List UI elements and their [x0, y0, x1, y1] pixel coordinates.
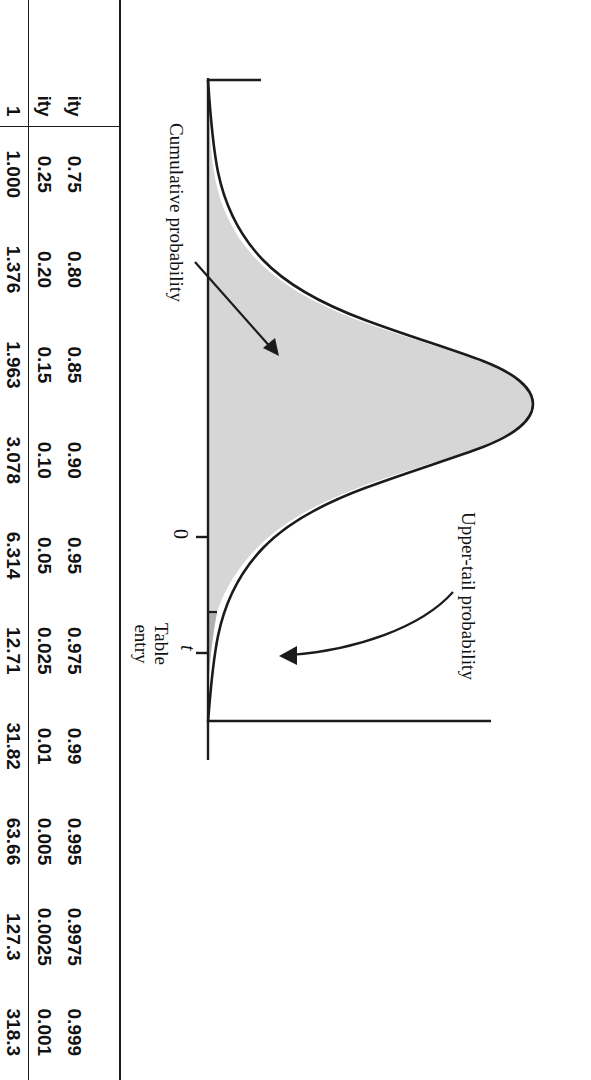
- upper-tail-cell: 0.15: [29, 317, 60, 412]
- table-cell: 318.3: [0, 985, 29, 1080]
- table-corner-cell: [89, 0, 120, 126]
- table-row-upper-tail-probability: ity 0.25 0.20 0.15 0.10 0.05 0.025 0.01 …: [29, 0, 60, 1080]
- table-entry-line-1: Table: [151, 623, 171, 665]
- table-cell: 3.078: [0, 413, 29, 508]
- table-cell: 127.3: [0, 889, 29, 984]
- table-cell: 12.71: [0, 603, 29, 698]
- cumulative-cell: 0.99: [59, 699, 89, 794]
- cumulative-cell: 0.80: [59, 222, 89, 317]
- upper-tail-cell: 0.001: [29, 985, 60, 1080]
- row-label-upper-tail-probability: ity: [29, 0, 60, 126]
- table-cell: 63.66: [0, 794, 29, 889]
- cumulative-cell: 0.95: [59, 508, 89, 603]
- upper-tail-cell: 0.25: [29, 126, 60, 222]
- table-cell: 1.376: [0, 222, 29, 317]
- upper-tail-probability-arrow: [291, 592, 453, 655]
- t-distribution-table: ity 0.75 0.80 0.85 0.90 0.95 0.975 0.99 …: [0, 0, 121, 1080]
- upper-tail-cell: 0.10: [29, 413, 60, 508]
- cumulative-cell: 0.85: [59, 317, 89, 412]
- upper-tail-cell: 0.0025: [29, 889, 60, 984]
- table-row-cumulative-probability: ity 0.75 0.80 0.85 0.90 0.95 0.975 0.99 …: [59, 0, 89, 1080]
- axis-tick-label-zero: 0: [169, 529, 192, 539]
- cumulative-cell: 0.9975: [59, 889, 89, 984]
- cumulative-cell: 0.75: [59, 126, 89, 222]
- t-table-container: ity 0.75 0.80 0.85 0.90 0.95 0.975 0.99 …: [0, 0, 121, 1080]
- t-distribution-figure: Cumulative probability Upper-tail probab…: [121, 0, 591, 1080]
- cumulative-cell: 0.995: [59, 794, 89, 889]
- cumulative-probability-region: [209, 88, 533, 612]
- upper-tail-cell: 0.005: [29, 794, 60, 889]
- row-label-cumulative-probability: ity: [59, 0, 89, 126]
- upper-tail-probability-label: Upper-tail probability: [457, 512, 479, 680]
- upper-tail-cell: 0.20: [29, 222, 60, 317]
- table-cell: 31.82: [0, 699, 29, 794]
- table-row: 1 1.000 1.376 1.963 3.078 6.314 12.71 31…: [0, 0, 29, 1080]
- upper-tail-cell: 0.01: [29, 699, 60, 794]
- upper-tail-cell: 0.05: [29, 508, 60, 603]
- cumulative-cell: 0.975: [59, 603, 89, 698]
- upper-tail-probability-arrowhead: [279, 646, 297, 665]
- t-distribution-curve-svg: [121, 0, 591, 1080]
- cumulative-cell: 0.90: [59, 413, 89, 508]
- row-label-df: 1: [0, 0, 29, 126]
- table-cell: 1.963: [0, 317, 29, 412]
- table-entry-label: Table entry: [131, 623, 171, 665]
- table-cell: 1.000: [0, 126, 29, 222]
- table-cell: 6.314: [0, 508, 29, 603]
- table-top-rule-row: [89, 0, 120, 1080]
- axis-tick-label-t: t: [176, 645, 199, 651]
- cumulative-cell: 0.999: [59, 985, 89, 1080]
- table-top-rule-span: [89, 126, 120, 1080]
- table-entry-line-2: entry: [131, 623, 151, 665]
- cumulative-probability-label: Cumulative probability: [165, 123, 187, 302]
- rotated-page-canvas: Cumulative probability Upper-tail probab…: [0, 0, 591, 1080]
- upper-tail-cell: 0.025: [29, 603, 60, 698]
